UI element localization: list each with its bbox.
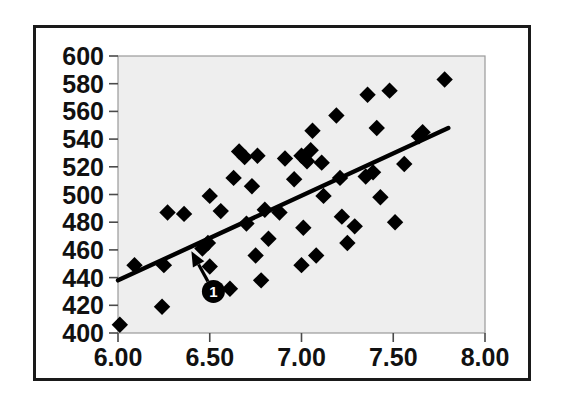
x-tick-label: 7.00: [277, 343, 326, 371]
y-axis-ticks: [109, 56, 118, 333]
x-axis-ticks: [118, 333, 485, 342]
x-tick-label: 6.00: [94, 343, 143, 371]
y-tick-label: 500: [62, 181, 104, 209]
y-tick-label: 520: [62, 153, 104, 181]
x-tick-label: 6.50: [185, 343, 234, 371]
callout-badge-label: 1: [209, 283, 217, 300]
y-tick-label: 560: [62, 97, 104, 125]
y-tick-label: 440: [62, 264, 104, 292]
y-tick-label: 540: [62, 125, 104, 153]
chart-canvas: 400420440460480500520540560580600 6.006.…: [0, 0, 563, 411]
y-tick-label: 460: [62, 236, 104, 264]
x-tick-label: 8.00: [461, 343, 510, 371]
x-tick-label: 7.50: [369, 343, 418, 371]
y-tick-label: 600: [62, 42, 104, 70]
y-tick-label: 420: [62, 291, 104, 319]
scatter-plot-figure: 400420440460480500520540560580600 6.006.…: [0, 0, 563, 411]
x-axis-tick-labels: 6.006.507.007.508.00: [94, 343, 510, 371]
y-axis-tick-labels: 400420440460480500520540560580600: [62, 42, 104, 347]
y-tick-label: 480: [62, 208, 104, 236]
y-tick-label: 580: [62, 70, 104, 98]
